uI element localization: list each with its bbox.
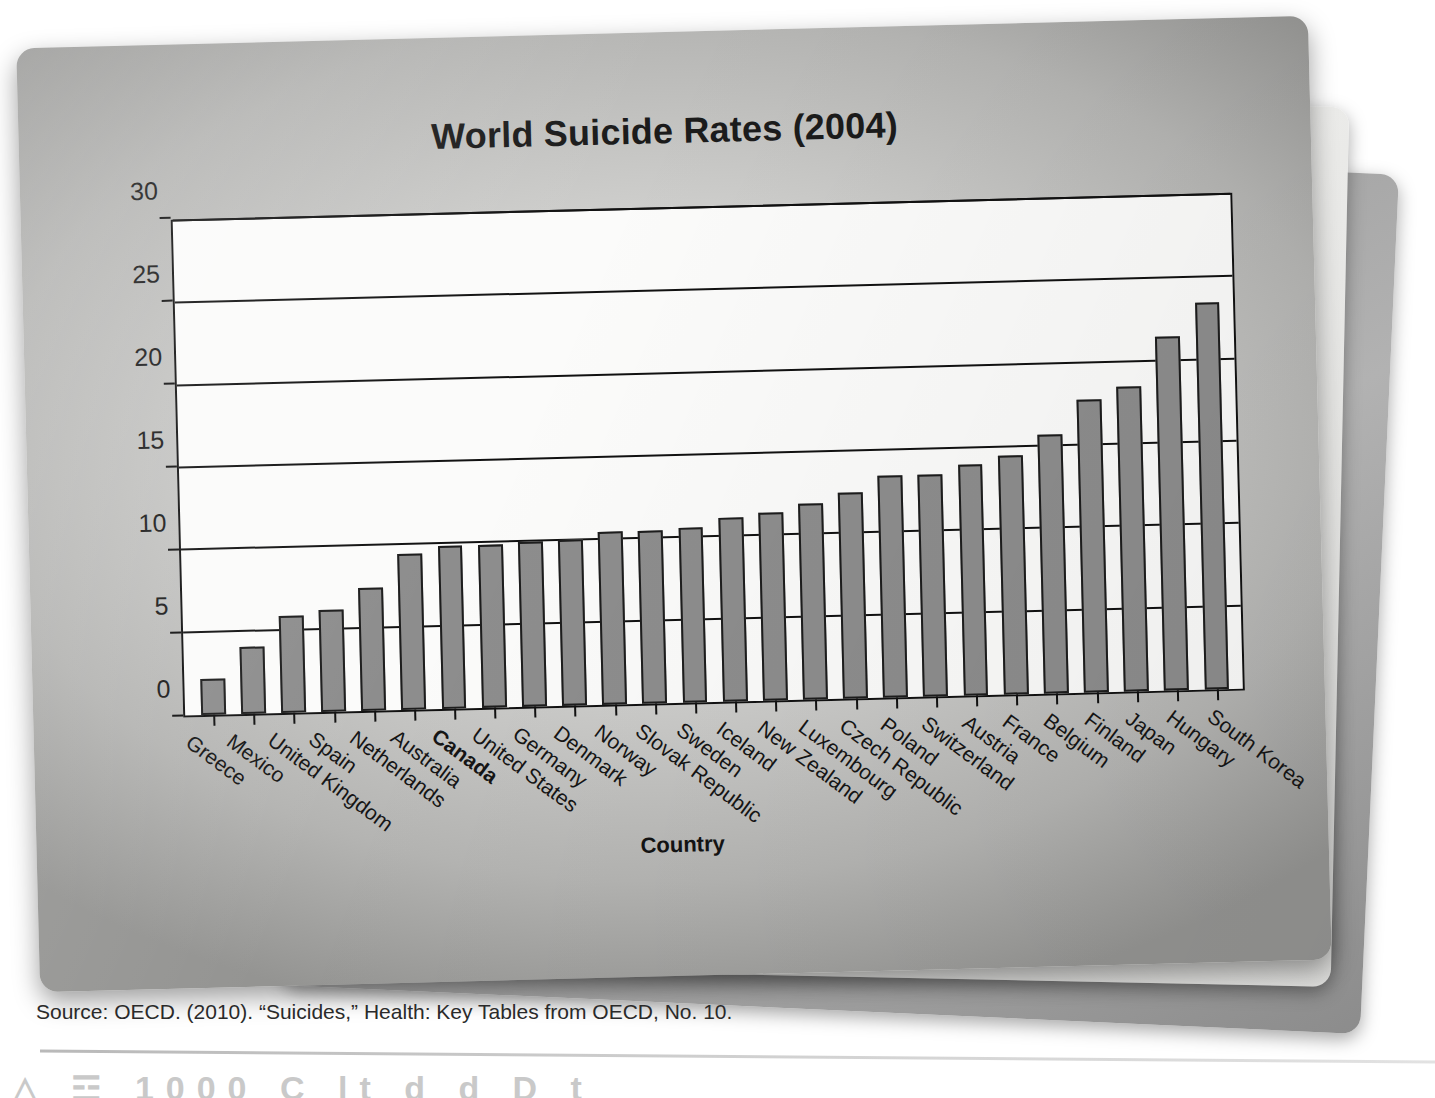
y-tick-label-5: 5	[98, 591, 169, 622]
bar	[438, 545, 467, 709]
bar	[478, 544, 507, 708]
x-tick-mark	[896, 697, 898, 708]
y-tick-label-15: 15	[94, 425, 165, 456]
x-tick-mark	[856, 698, 858, 709]
x-tick-mark	[494, 708, 496, 719]
x-tick-mark	[1137, 691, 1139, 702]
bar	[358, 587, 386, 711]
bar	[1195, 302, 1230, 689]
x-tick-mark	[334, 712, 336, 723]
x-tick-mark	[815, 699, 817, 710]
y-tick-mark-30	[160, 217, 171, 219]
x-tick-mark	[1056, 693, 1058, 704]
x-tick-mark	[294, 713, 296, 724]
y-tick-mark-20	[164, 383, 175, 385]
x-tick-mark	[575, 706, 577, 717]
x-tick-mark	[775, 700, 777, 711]
y-tick-mark-15	[166, 466, 177, 468]
y-tick-mark-5	[170, 632, 181, 634]
x-tick-mark	[414, 710, 416, 721]
y-tick-label-0: 0	[100, 674, 171, 705]
y-tick-label-10: 10	[96, 508, 167, 539]
bar	[758, 513, 788, 701]
plot-wrapper: Suicide rate per 100 000 people 05101520…	[171, 193, 1245, 718]
x-tick-mark	[1016, 694, 1018, 705]
bar	[638, 530, 667, 703]
y-tick-mark-0	[172, 714, 183, 716]
x-tick-mark	[534, 707, 536, 718]
bar	[998, 455, 1029, 694]
x-tick-mark	[976, 695, 978, 706]
plot-area	[171, 193, 1245, 718]
x-tick-mark	[374, 711, 376, 722]
bar	[1077, 399, 1109, 693]
chart-title: World Suicide Rates (2004)	[18, 94, 1311, 169]
bar	[398, 553, 427, 710]
footer-divider	[40, 1050, 1435, 1064]
x-tick-mark	[655, 703, 657, 714]
bar	[279, 615, 306, 713]
bar	[1155, 336, 1189, 691]
bar	[1037, 435, 1068, 694]
footer-cut-text: △ ☲ 1000 C lt d d D t	[12, 1068, 1432, 1098]
y-tick-mark-25	[162, 300, 173, 302]
x-tick-mark	[1177, 690, 1179, 701]
y-tick-mark-10	[168, 549, 179, 551]
bar	[958, 465, 989, 696]
bar	[678, 528, 707, 703]
x-tick-mark	[615, 705, 617, 716]
x-tick-mark	[213, 715, 215, 726]
bar	[319, 609, 346, 712]
x-tick-mark	[936, 696, 938, 707]
y-tick-label-30: 30	[88, 176, 159, 207]
y-tick-label-25: 25	[90, 259, 161, 290]
bar	[838, 492, 868, 698]
x-tick-mark	[735, 701, 737, 712]
bar-series	[181, 195, 1237, 715]
bar	[200, 678, 226, 715]
bar	[518, 542, 547, 707]
x-tick-mark	[695, 702, 697, 713]
bar	[239, 646, 266, 714]
chart-card: World Suicide Rates (2004) Suicide rate …	[16, 16, 1331, 992]
bar	[558, 539, 587, 706]
source-note: Source: OECD. (2010). “Suicides,” Health…	[36, 1000, 732, 1024]
bar	[1116, 387, 1149, 692]
bar	[798, 503, 828, 700]
bar	[718, 517, 748, 702]
bar	[598, 531, 627, 704]
bar	[878, 475, 909, 698]
x-tick-mark	[1217, 689, 1219, 700]
x-tick-mark	[253, 714, 255, 725]
x-tick-mark	[454, 709, 456, 720]
x-tick-mark	[1096, 692, 1098, 703]
y-tick-label-20: 20	[92, 342, 163, 373]
bar	[918, 474, 949, 697]
